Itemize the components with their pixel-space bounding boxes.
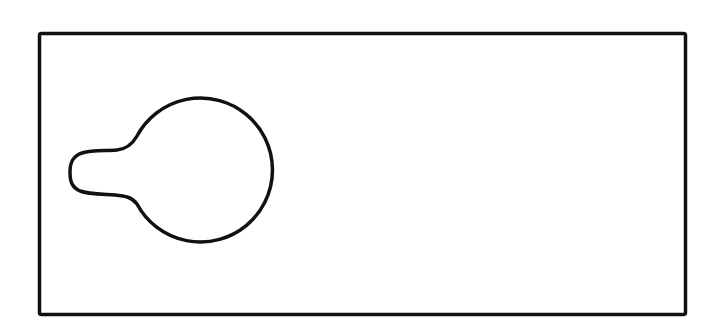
- rectangle-frame: [40, 34, 686, 315]
- keyhole-bulb-shape: [70, 98, 272, 242]
- drawing-canvas: [0, 0, 723, 333]
